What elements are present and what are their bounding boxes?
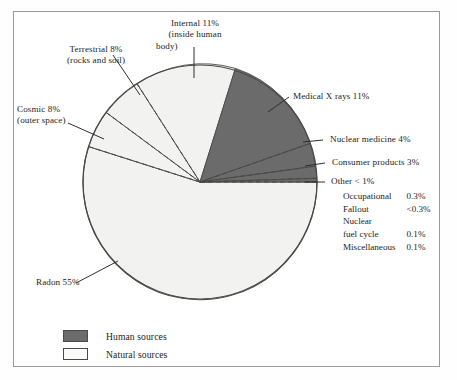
chart-legend: Human sources Natural sources [63,327,167,363]
other-row-name: Occupational [343,190,396,203]
other-row-value [396,215,431,228]
legend-label-human-sources: Human sources [106,331,167,342]
label-internal-line3: body) [152,41,238,52]
label-radon: Radon 55% [36,277,80,288]
table-row: Miscellaneous 0.1% [343,241,431,254]
legend-label-natural-sources: Natural sources [106,349,167,360]
legend-swatch-natural-sources [63,348,88,360]
label-consumer-products-text: Consumer products 3% [332,157,419,167]
table-row: Occupational 0.3% [343,190,431,203]
other-row-name: Nuclear [343,215,396,228]
label-internal-line1: Internal 11% [152,18,238,29]
label-radon-text: Radon 55% [36,277,80,287]
table-row: Fallout <0.3% [343,203,431,216]
other-row-name: Fallout [343,203,396,216]
label-cosmic-line1: Cosmic 8% [17,104,103,115]
label-internal-line2: (inside human [152,29,238,40]
table-row: fuel cycle 0.1% [343,228,431,241]
label-other-text: Other < 1% [331,176,375,186]
other-breakdown-body: Occupational 0.3% Fallout <0.3% Nuclear … [343,190,431,254]
figure-root: Internal 11% (inside human body) Terrest… [0,0,457,380]
label-internal: Internal 11% (inside human body) [152,18,238,52]
label-terrestrial-line1: Terrestrial 8% [44,44,148,55]
legend-item-natural-sources: Natural sources [63,345,167,363]
legend-item-human-sources: Human sources [63,327,167,345]
label-consumer-products: Consumer products 3% [332,157,419,168]
label-cosmic: Cosmic 8% (outer space) [17,104,103,127]
label-terrestrial: Terrestrial 8% (rocks and soil) [44,44,148,67]
label-other: Other < 1% [331,176,375,187]
other-row-value: 0.1% [396,228,431,241]
label-medical-xrays: Medical X rays 11% [293,91,369,102]
label-medical-xrays-text: Medical X rays 11% [293,91,369,101]
other-row-name: fuel cycle [343,228,396,241]
leader-line-radon [76,261,118,283]
legend-swatch-human-sources [63,330,88,342]
other-row-name: Miscellaneous [343,241,396,254]
other-row-value: 0.1% [396,241,431,254]
other-breakdown-table: Occupational 0.3% Fallout <0.3% Nuclear … [343,190,431,254]
label-nuclear-medicine: Nuclear medicine 4% [330,134,411,145]
table-row: Nuclear [343,215,431,228]
other-row-value: <0.3% [396,203,431,216]
other-row-value: 0.3% [396,190,431,203]
label-cosmic-line2: (outer space) [17,115,103,126]
label-nuclear-medicine-text: Nuclear medicine 4% [330,134,411,144]
label-terrestrial-line2: (rocks and soil) [44,55,148,66]
